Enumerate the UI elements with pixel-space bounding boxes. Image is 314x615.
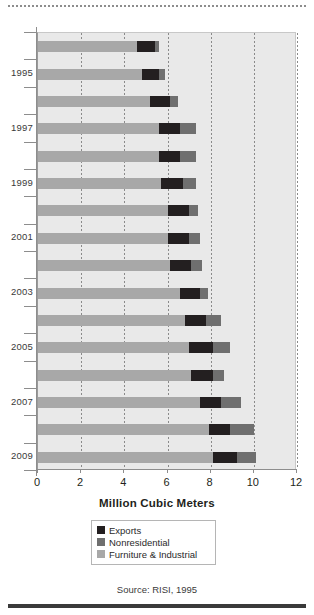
bar-segment-fi: [38, 178, 161, 189]
bar-segment-ex: [168, 205, 190, 216]
y-axis-label-2005: 2005: [0, 342, 33, 352]
y-axis-label-text: 1999: [11, 178, 33, 188]
legend-item: Exports: [97, 524, 210, 536]
y-axis-label-text: 2009: [11, 451, 33, 461]
y-axis-label-text: 2001: [11, 232, 33, 242]
bar-segment-nr: [200, 288, 209, 299]
bar-segment-nr: [159, 69, 165, 80]
legend-item-label: Nonresidential: [109, 537, 170, 548]
x-axis-tick-label-0: 0: [34, 476, 40, 489]
bar-row: [38, 260, 202, 271]
bar-segment-fi: [38, 205, 168, 216]
plot-area: [37, 32, 296, 470]
bar-segment-fi: [38, 151, 159, 162]
bar-segment-ex: [209, 424, 231, 435]
bar-segment-ex: [200, 397, 222, 408]
bar-segment-fi: [38, 69, 142, 80]
bar-row: [38, 151, 196, 162]
y-axis-label-2001: 2001: [0, 232, 33, 242]
x-axis-tick-label-8: 8: [207, 476, 213, 489]
source-note: Source: RISI, 1995: [0, 584, 314, 595]
y-axis-label-text: 2003: [11, 287, 33, 297]
x-axis-tick-10: [253, 469, 254, 473]
x-axis-title: Million Cubic Meters: [0, 497, 314, 509]
bar-segment-nr: [183, 178, 196, 189]
plot-area-wrapper: 19951997199920012003200520072009: [0, 27, 314, 475]
bar-segment-ex: [142, 69, 159, 80]
bar-segment-nr: [191, 260, 202, 271]
y-axis-label-1999: 1999: [0, 178, 33, 188]
y-axis-line: [36, 27, 37, 476]
bar-row: [38, 69, 165, 80]
x-axis-tick-label-2: 2: [77, 476, 83, 489]
bar-row: [38, 178, 196, 189]
legend-item-label: Furniture & Industrial: [109, 549, 197, 560]
x-axis-tick-label-12: 12: [290, 476, 302, 489]
y-axis-label-1997: 1997: [0, 123, 33, 133]
bar-segment-nr: [189, 233, 200, 244]
x-axis-tick-12: [296, 469, 297, 473]
bar-segment-nr: [213, 342, 230, 353]
bar-row: [38, 123, 196, 134]
x-axis-tick-4: [123, 469, 124, 473]
x-axis-ticks: [0, 469, 314, 475]
legend-swatch-fi: [97, 550, 105, 558]
bar-row: [38, 424, 254, 435]
figure: 19951997199920012003200520072009 0246810…: [0, 0, 314, 615]
chart-legend: ExportsNonresidentialFurniture & Industr…: [91, 520, 216, 565]
x-axis-tick-label-4: 4: [120, 476, 126, 489]
bar-segment-fi: [38, 123, 159, 134]
bar-segment-nr: [230, 424, 254, 435]
top-divider-rule: [8, 5, 306, 7]
bar-segment-ex: [168, 233, 190, 244]
y-axis-label-2007: 2007: [0, 397, 33, 407]
bar-segment-ex: [191, 370, 213, 381]
gridline-x-10: [254, 33, 255, 469]
bar-segment-ex: [150, 96, 169, 107]
bar-segment-fi: [38, 424, 209, 435]
bar-segment-nr: [180, 151, 195, 162]
bar-segment-nr: [155, 41, 159, 52]
bar-row: [38, 41, 159, 52]
bar-segment-ex: [159, 151, 181, 162]
gridline-x-12: [297, 33, 298, 469]
y-axis-label-text: 1995: [11, 68, 33, 78]
bar-row: [38, 370, 224, 381]
bar-segment-nr: [170, 96, 179, 107]
x-axis-tick-labels: 024681012: [0, 476, 314, 490]
bar-segment-ex: [189, 342, 213, 353]
legend-item-label: Exports: [109, 525, 141, 536]
x-axis-tick-6: [167, 469, 168, 473]
legend-item: Nonresidential: [97, 536, 210, 548]
y-axis-label-text: 1997: [11, 123, 33, 133]
bar-segment-nr: [221, 397, 240, 408]
bar-segment-fi: [38, 370, 191, 381]
bar-row: [38, 397, 241, 408]
bar-segment-nr: [237, 452, 256, 463]
bar-row: [38, 315, 221, 326]
bar-row: [38, 288, 208, 299]
bar-segment-fi: [38, 41, 137, 52]
x-axis-tick-2: [80, 469, 81, 473]
bar-segment-fi: [38, 315, 185, 326]
bar-row: [38, 205, 198, 216]
bar-segment-nr: [180, 123, 195, 134]
bar-segment-fi: [38, 397, 200, 408]
x-axis-tick-0: [37, 469, 38, 473]
bar-segment-fi: [38, 260, 170, 271]
legend-swatch-nr: [97, 538, 105, 546]
legend-swatch-ex: [97, 526, 105, 534]
bar-segment-fi: [38, 452, 213, 463]
x-axis-tick-8: [210, 469, 211, 473]
bar-segment-ex: [213, 452, 237, 463]
bar-segment-fi: [38, 96, 150, 107]
bar-segment-fi: [38, 233, 168, 244]
bar-segment-nr: [206, 315, 221, 326]
x-axis-tick-label-10: 10: [247, 476, 259, 489]
y-axis-label-2003: 2003: [0, 287, 33, 297]
bar-segment-ex: [180, 288, 199, 299]
legend-item: Furniture & Industrial: [97, 548, 210, 560]
x-axis-tick-label-6: 6: [163, 476, 169, 489]
bar-row: [38, 96, 178, 107]
y-axis-label-2009: 2009: [0, 451, 33, 461]
